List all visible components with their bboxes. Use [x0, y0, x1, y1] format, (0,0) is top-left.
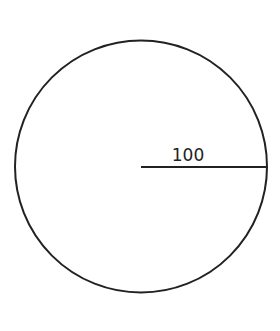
- circle-diagram: 100: [0, 0, 280, 331]
- radius-label: 100: [172, 145, 204, 165]
